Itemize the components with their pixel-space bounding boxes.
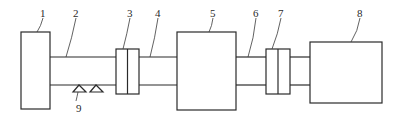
bearing-triangle-icon [90,85,103,92]
label-1: 1 [40,7,46,19]
bearing-triangle-icon [73,85,86,92]
shaft-7-8 [290,57,310,85]
shaft-2 [50,57,116,85]
component-1-box [21,32,50,109]
component-8-box [310,42,382,103]
drivetrain-diagram: 1 2 3 4 5 6 7 8 9 [0,0,398,121]
label-7: 7 [278,7,284,19]
shaft-4 [139,57,177,85]
label-3: 3 [127,7,133,19]
label-8: 8 [357,7,363,19]
component-5-box [177,32,236,110]
coupling-3 [116,49,139,94]
bearing-supports-9 [73,85,103,92]
label-4: 4 [155,7,161,19]
shaft-6 [236,57,266,85]
label-2: 2 [73,7,79,19]
label-6: 6 [253,7,259,19]
label-5: 5 [210,7,216,19]
coupling-7 [266,49,290,94]
label-9: 9 [76,102,82,114]
